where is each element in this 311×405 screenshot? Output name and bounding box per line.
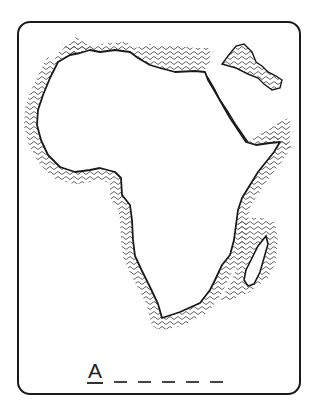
- letter-blanks: [114, 381, 234, 383]
- blank-dash: [210, 381, 223, 383]
- blank-dash: [114, 381, 127, 383]
- blank-dash: [162, 381, 175, 383]
- blank-dash: [138, 381, 151, 383]
- blank-dash: [186, 381, 199, 383]
- northeast-sea: [222, 44, 282, 90]
- africa-map: [0, 0, 311, 405]
- answer-blank: A: [87, 358, 234, 384]
- answer-first-letter: A: [87, 361, 103, 384]
